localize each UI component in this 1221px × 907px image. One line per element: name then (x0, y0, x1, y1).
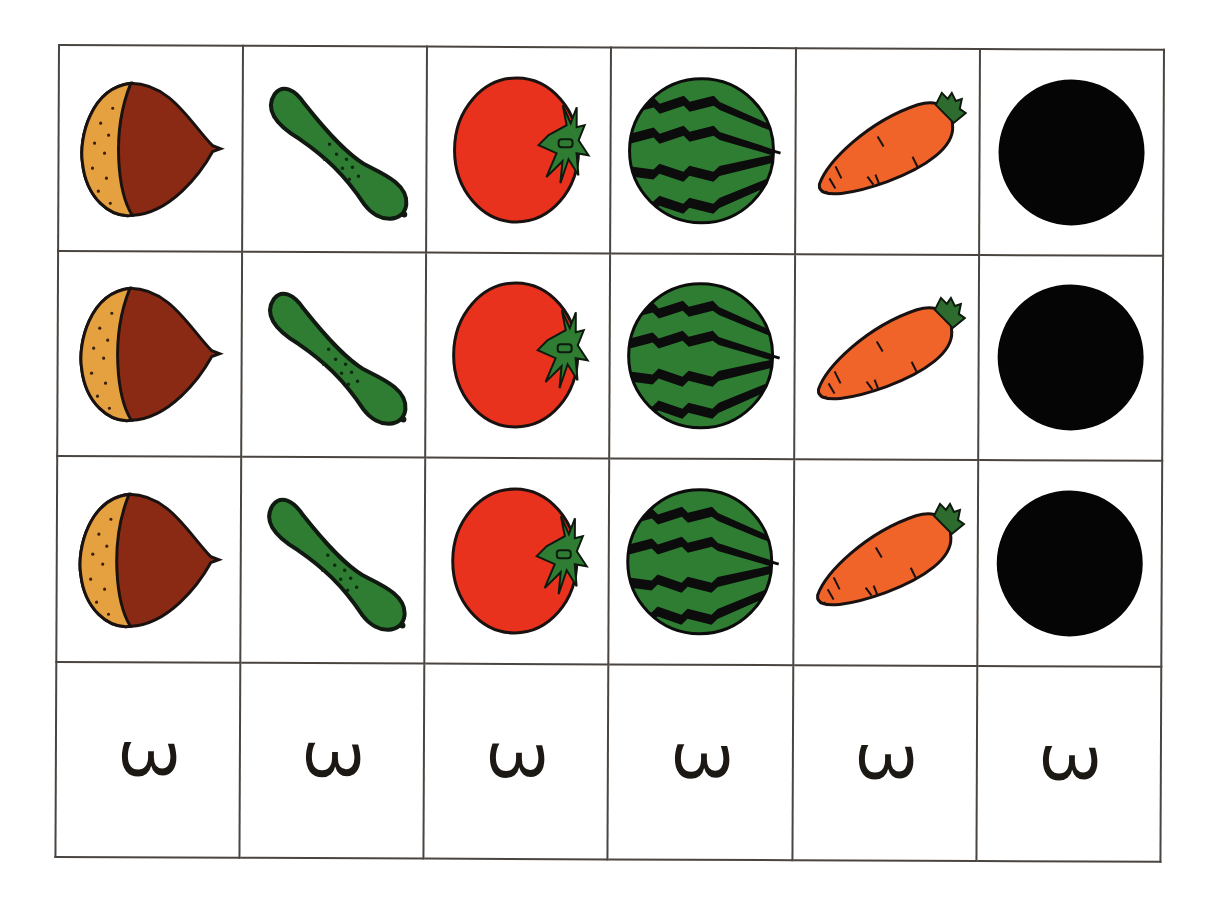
tomato-icon (426, 459, 609, 663)
carrot-icon (794, 460, 977, 664)
picture-cell-watermelon (609, 458, 794, 664)
picture-row-1 (58, 45, 1164, 255)
picture-cell-chestnut (56, 456, 241, 662)
cucumber-icon (243, 47, 426, 251)
counting-worksheet: 333333 (54, 44, 1165, 863)
picture-cell-cucumber (240, 457, 425, 663)
picture-cell-carrot (795, 48, 980, 254)
picture-cell-chestnut (58, 45, 243, 251)
count-label: 3 (1033, 741, 1105, 787)
picture-cell-chestnut (57, 251, 242, 457)
picture-cell-watermelon (611, 47, 796, 253)
count-label: 3 (112, 737, 184, 783)
picture-cell-black-circle (978, 255, 1163, 461)
cucumber-icon (242, 252, 425, 456)
picture-cell-watermelon (610, 253, 795, 459)
picture-grid: 333333 (54, 44, 1165, 863)
tomato-icon (427, 48, 610, 252)
count-cell-carrot: 3 (792, 665, 977, 861)
watermelon-icon (611, 254, 794, 458)
count-cell-chestnut: 3 (55, 661, 240, 857)
picture-cell-tomato (426, 47, 611, 253)
picture-cell-black-circle (979, 49, 1164, 255)
picture-cell-cucumber (241, 251, 426, 457)
count-cell-black-circle: 3 (976, 666, 1161, 862)
count-label: 3 (664, 739, 736, 785)
count-label: 3 (296, 737, 368, 783)
watermelon-icon (612, 48, 795, 252)
chestnut-icon (57, 457, 240, 661)
picture-row-2 (57, 251, 1163, 461)
cucumber-icon (241, 458, 424, 662)
picture-cell-tomato (426, 252, 611, 458)
black-circle-icon (978, 461, 1161, 665)
picture-cell-carrot (794, 254, 979, 460)
picture-cell-tomato (425, 458, 610, 664)
count-cell-cucumber: 3 (240, 662, 425, 858)
carrot-icon (796, 49, 979, 253)
chestnut-icon (59, 46, 242, 250)
chestnut-icon (58, 252, 241, 456)
tomato-icon (427, 253, 610, 457)
watermelon-icon (610, 459, 793, 663)
count-label: 3 (848, 740, 920, 786)
picture-cell-carrot (793, 459, 978, 665)
picture-row-3 (56, 456, 1162, 666)
count-cell-tomato: 3 (424, 663, 609, 859)
picture-cell-black-circle (977, 460, 1162, 666)
black-circle-icon (979, 256, 1162, 460)
picture-cell-cucumber (242, 46, 427, 252)
carrot-icon (795, 255, 978, 459)
black-circle-icon (980, 50, 1163, 254)
count-cell-watermelon: 3 (608, 664, 793, 860)
count-label: 3 (480, 738, 552, 784)
count-row: 333333 (55, 661, 1161, 861)
